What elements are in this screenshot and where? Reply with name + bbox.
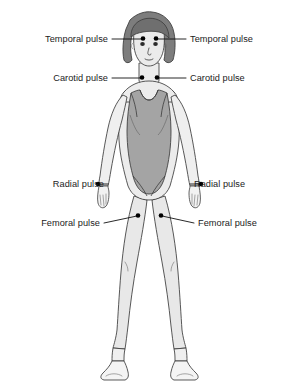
right-ankle bbox=[174, 348, 187, 361]
label-radial-left: Radial pulse bbox=[53, 179, 104, 189]
shoulders bbox=[120, 81, 178, 102]
marker-carotid-left bbox=[140, 75, 145, 80]
pulse-points-diagram: Temporal pulse Temporal pulse Carotid pu… bbox=[0, 0, 298, 386]
left-leg-shape bbox=[113, 196, 147, 349]
marker-temporal-left bbox=[141, 36, 146, 41]
left-eye bbox=[140, 42, 145, 46]
marker-temporal-right bbox=[154, 36, 159, 41]
left-foot bbox=[101, 361, 129, 380]
label-femoral-right: Femoral pulse bbox=[198, 218, 257, 228]
body-figure-illustration: Temporal pulse Temporal pulse Carotid pu… bbox=[0, 0, 298, 386]
body-group bbox=[98, 12, 201, 380]
label-temporal-right: Temporal pulse bbox=[190, 34, 253, 44]
label-temporal-left: Temporal pulse bbox=[45, 34, 108, 44]
swimsuit-body bbox=[127, 90, 171, 194]
left-ankle bbox=[112, 348, 125, 361]
legs-group bbox=[101, 196, 198, 380]
right-leg-shape bbox=[152, 196, 186, 349]
label-radial-right: Radial pulse bbox=[194, 179, 245, 189]
right-eye bbox=[153, 42, 158, 46]
right-foot bbox=[171, 361, 199, 380]
left-ear bbox=[132, 43, 134, 49]
label-carotid-right: Carotid pulse bbox=[190, 73, 245, 83]
label-carotid-left: Carotid pulse bbox=[53, 73, 108, 83]
marker-femoral-left bbox=[136, 213, 141, 218]
marker-femoral-right bbox=[159, 213, 164, 218]
label-femoral-left: Femoral pulse bbox=[41, 218, 100, 228]
marker-carotid-right bbox=[155, 75, 160, 80]
